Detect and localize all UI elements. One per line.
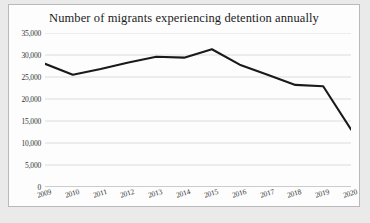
x-axis-tick-label: 2020 — [342, 187, 358, 200]
y-axis-tick-label: 30,000 — [22, 51, 41, 60]
plot-area — [45, 33, 351, 187]
x-axis-tick-label: 2014 — [175, 187, 191, 200]
x-axis-tick-label: 2013 — [147, 187, 163, 200]
gridlines — [45, 33, 351, 187]
y-axis-tick-label: 20,000 — [22, 95, 41, 104]
page-background: Number of migrants experiencing detentio… — [0, 0, 370, 223]
x-axis-tick-label: 2018 — [286, 187, 302, 200]
x-axis-tick-label: 2012 — [119, 187, 135, 200]
x-axis-tick-label: 2016 — [231, 187, 247, 200]
y-axis-tick-label: 25,000 — [22, 73, 41, 82]
x-axis-tick-label: 2011 — [92, 187, 108, 199]
x-axis-tick-label: 2017 — [259, 187, 275, 200]
x-axis-tick-label: 2010 — [64, 187, 80, 200]
x-axis-tick-label: 2015 — [203, 187, 219, 200]
y-axis-tick-label: 15,000 — [22, 117, 41, 126]
line-chart-svg — [45, 33, 351, 187]
y-axis-tick-label: 5,000 — [25, 161, 41, 170]
chart-container: Number of migrants experiencing detentio… — [8, 4, 360, 207]
y-axis-labels: 05,00010,00015,00020,00025,00030,00035,0… — [9, 33, 43, 187]
chart-title: Number of migrants experiencing detentio… — [9, 11, 359, 26]
x-axis-labels: 2009201020112012201320142015201620172018… — [45, 189, 351, 211]
y-axis-tick-label: 35,000 — [22, 29, 41, 38]
y-axis-tick-label: 10,000 — [22, 139, 41, 148]
data-line-series-1 — [45, 49, 351, 129]
x-axis-tick-label: 2019 — [314, 187, 330, 200]
